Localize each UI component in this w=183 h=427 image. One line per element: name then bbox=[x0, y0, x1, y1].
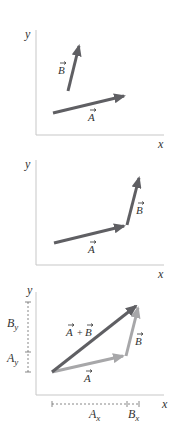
y-axis-label: y bbox=[24, 157, 31, 171]
ax-component-label: Ax bbox=[88, 407, 100, 423]
ay-component-label: Ay bbox=[6, 351, 18, 367]
x-axis-label: x bbox=[157, 267, 164, 281]
vector-addition-diagram: y x B A y x A B bbox=[0, 0, 183, 427]
y-axis-label: y bbox=[26, 283, 33, 297]
panel-2-tip-to-tail: y x A B bbox=[24, 157, 164, 281]
svg-text:A: A bbox=[65, 326, 73, 338]
svg-text:B: B bbox=[136, 204, 143, 216]
y-components-guide bbox=[25, 302, 31, 372]
svg-text:A: A bbox=[87, 111, 95, 123]
x-axis-label: x bbox=[157, 137, 164, 151]
panel-3-resultant-components: y x A B A + B bbox=[6, 283, 168, 423]
vector-a-label: A bbox=[87, 241, 96, 256]
vector-a-label: A bbox=[83, 370, 92, 385]
vector-a bbox=[54, 226, 124, 243]
vector-b bbox=[68, 46, 79, 91]
svg-text:B: B bbox=[85, 326, 92, 338]
bx-component-label: Bx bbox=[128, 407, 139, 423]
svg-text:A: A bbox=[87, 243, 95, 255]
vector-b bbox=[127, 178, 139, 225]
vector-b-label: B bbox=[58, 62, 66, 77]
panel-1-separate-vectors: y x B A bbox=[24, 27, 164, 151]
svg-text:+: + bbox=[77, 327, 83, 338]
by-component-label: By bbox=[7, 316, 18, 332]
svg-text:A: A bbox=[83, 372, 91, 384]
y-axis-label: y bbox=[24, 27, 31, 41]
vector-b-label: B bbox=[135, 333, 143, 348]
vector-a-plus-b-label: A + B bbox=[65, 324, 93, 339]
vector-b bbox=[126, 308, 138, 356]
x-axis-label: x bbox=[161, 397, 168, 411]
vector-a-label: A bbox=[87, 109, 96, 124]
vector-b-label: B bbox=[136, 202, 144, 217]
svg-text:B: B bbox=[58, 64, 65, 76]
svg-text:B: B bbox=[135, 335, 142, 347]
